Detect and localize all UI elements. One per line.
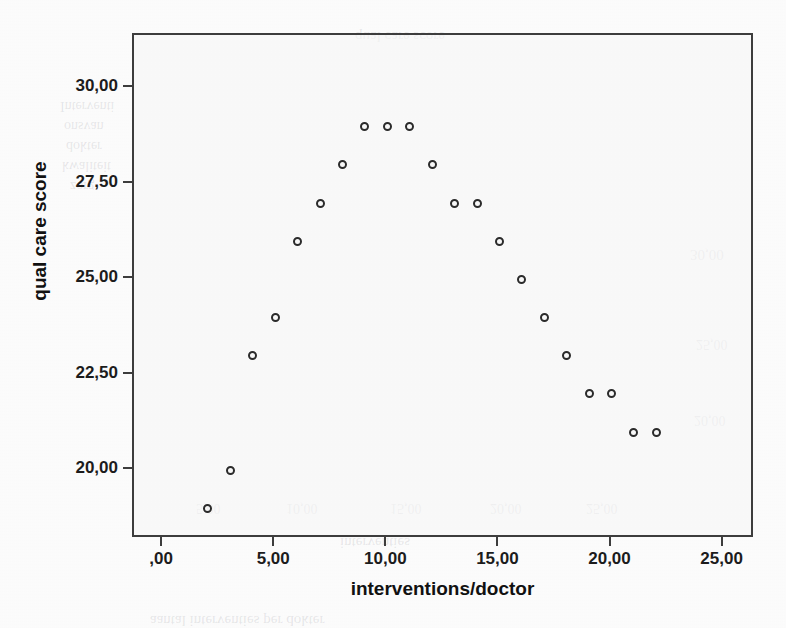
y-axis-title: qual care score: [29, 121, 51, 341]
data-point: [405, 122, 414, 131]
data-point: [316, 199, 325, 208]
data-point: [338, 160, 347, 169]
y-axis-tick: [123, 181, 132, 183]
data-point: [540, 313, 549, 322]
x-axis-tick: [721, 537, 723, 546]
data-point: [428, 160, 437, 169]
x-axis-ticklabel: 20,00: [588, 549, 631, 569]
y-axis-tick: [123, 276, 132, 278]
data-point: [607, 389, 616, 398]
plot-area: [132, 33, 753, 537]
data-point: [450, 199, 459, 208]
data-point: [517, 275, 526, 284]
x-axis-title: interventions/doctor: [132, 578, 753, 600]
data-point: [203, 504, 212, 513]
y-axis-ticklabel: 30,00: [75, 76, 118, 96]
y-axis-ticklabel: 20,00: [75, 458, 118, 478]
y-axis-ticklabel: 25,00: [75, 267, 118, 287]
data-point: [226, 466, 235, 475]
y-axis-tick: [123, 372, 132, 374]
data-point: [383, 122, 392, 131]
x-axis-tick: [384, 537, 386, 546]
data-point-layer: [134, 35, 751, 535]
y-axis-ticklabel: 22,50: [75, 363, 118, 383]
data-point: [495, 237, 504, 246]
y-axis-ticklabel: 27,50: [75, 172, 118, 192]
bleed-through-text: aantal interventies per dokter: [150, 612, 325, 628]
data-point: [248, 351, 257, 360]
data-point: [629, 428, 638, 437]
scatterplot-figure: qual care scoreInterventionsvandokterkwa…: [0, 0, 786, 628]
data-point: [293, 237, 302, 246]
x-axis-ticklabel: 10,00: [364, 549, 407, 569]
data-point: [652, 428, 661, 437]
x-axis-tick: [272, 537, 274, 546]
data-point: [585, 389, 594, 398]
x-axis-tick: [496, 537, 498, 546]
x-axis-tick: [160, 537, 162, 546]
data-point: [562, 351, 571, 360]
data-point: [360, 122, 369, 131]
x-axis-ticklabel: 5,00: [257, 549, 290, 569]
x-axis-ticklabel: 25,00: [700, 549, 743, 569]
x-axis-ticklabel: 15,00: [476, 549, 519, 569]
y-axis-tick: [123, 85, 132, 87]
y-axis-tick: [123, 467, 132, 469]
y-axis-ticklabels: 30,0027,5025,0022,5020,00: [0, 0, 118, 628]
x-axis-tick: [609, 537, 611, 546]
data-point: [473, 199, 482, 208]
x-axis-ticklabel: ,00: [149, 549, 173, 569]
data-point: [271, 313, 280, 322]
